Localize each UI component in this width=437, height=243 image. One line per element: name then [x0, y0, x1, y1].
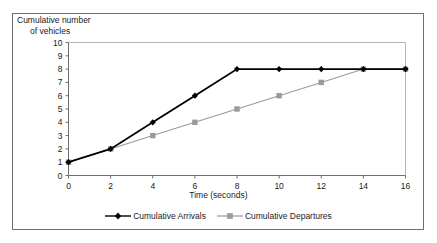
x-tick-label: 12 [317, 181, 327, 191]
chart-legend: Cumulative Arrivals Cumulative Departure… [0, 211, 437, 221]
data-point-marker [318, 66, 324, 72]
y-tick-label: 3 [58, 131, 63, 141]
legend-item-arrivals: Cumulative Arrivals [105, 211, 206, 221]
series-line-cumulative-departures [69, 69, 406, 162]
x-axis-title: Time (seconds) [0, 190, 437, 200]
x-tick-label: 4 [150, 181, 155, 191]
x-tick-label: 14 [359, 181, 369, 191]
chart-figure: Cumulative number of vehicles 0123456789… [0, 0, 437, 243]
legend-item-departures: Cumulative Departures [217, 211, 332, 221]
x-tick-label: 6 [193, 181, 198, 191]
x-tick-label: 8 [235, 181, 240, 191]
legend-marker-square-icon [217, 211, 243, 221]
data-point-marker [150, 133, 155, 138]
data-point-marker [192, 120, 197, 125]
x-tick-label: 16 [401, 181, 411, 191]
y-tick-label: 5 [58, 104, 63, 114]
data-point-marker [276, 66, 282, 72]
y-tick-label: 7 [58, 77, 63, 87]
legend-label-departures: Cumulative Departures [245, 211, 332, 221]
y-tick-label: 6 [58, 91, 63, 101]
x-tick-label: 0 [66, 181, 71, 191]
y-tick-label: 8 [58, 64, 63, 74]
x-tick-label: 2 [108, 181, 113, 191]
data-point-marker [276, 93, 281, 98]
y-tick-label: 4 [58, 117, 63, 127]
y-tick-label: 0 [58, 171, 63, 181]
y-tick-label: 1 [58, 157, 63, 167]
data-point-marker [319, 80, 324, 85]
y-tick-label: 10 [53, 38, 63, 48]
x-tick-label: 10 [274, 181, 284, 191]
series-line-cumulative-arrivals [69, 69, 406, 162]
y-tick-label: 9 [58, 51, 63, 61]
legend-label-arrivals: Cumulative Arrivals [133, 211, 206, 221]
y-tick-label: 2 [58, 144, 63, 154]
data-point-marker [234, 106, 239, 111]
plot-area: 0123456789100246810121416 [0, 0, 437, 243]
legend-marker-diamond-icon [105, 211, 131, 221]
